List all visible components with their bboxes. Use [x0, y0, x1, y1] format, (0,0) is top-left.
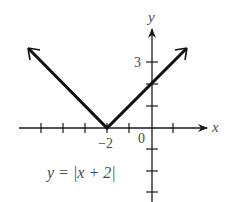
x-axis-label: x: [211, 119, 219, 135]
y-axis-label: y: [146, 9, 155, 25]
equation-label: y = |x + 2|: [45, 164, 116, 182]
graph-canvas: x y −2 0 3 y = |x + 2|: [0, 0, 232, 202]
absolute-value-curve: [29, 49, 186, 128]
tick-label-three: 3: [134, 55, 141, 70]
tick-label-minus2: −2: [98, 136, 113, 151]
tick-label-zero: 0: [138, 131, 145, 146]
